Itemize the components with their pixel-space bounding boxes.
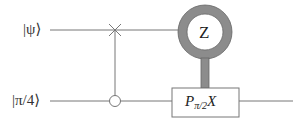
gate-label-sub: π/2: [194, 100, 207, 111]
wire-label-top: |ψ⟩: [23, 22, 41, 37]
gate-label-tail: X: [207, 93, 216, 109]
open-circle-icon: [110, 96, 121, 107]
gate-label-main: P: [185, 93, 194, 109]
gate-label: Pπ/2X: [185, 94, 216, 111]
circuit-graphics: [0, 0, 307, 122]
wire-label-bottom: |π/4⟩: [12, 93, 40, 108]
classical-stem: [201, 58, 209, 88]
meter-basis-label: Z: [199, 24, 209, 41]
quantum-circuit-diagram: |ψ⟩ |π/4⟩ Z Pπ/2X: [0, 0, 307, 122]
